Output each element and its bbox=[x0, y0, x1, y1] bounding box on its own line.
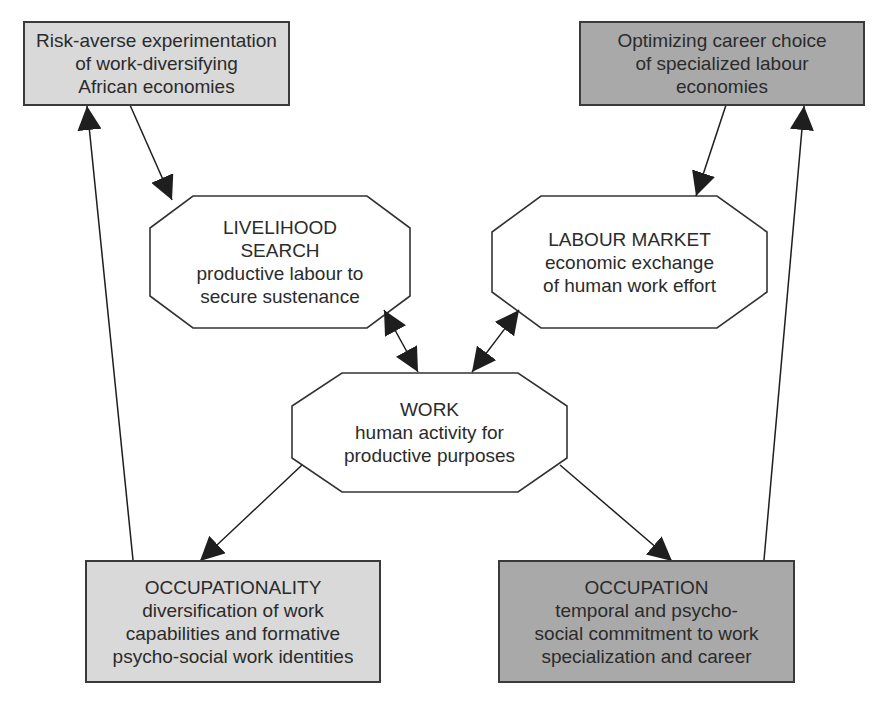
livelihood-search-node: LIVELIHOOD SEARCH productive labour to s… bbox=[150, 196, 410, 328]
node-line: productive labour to bbox=[197, 262, 364, 285]
arrow-risk-to-livelihood bbox=[130, 105, 172, 200]
arrow-occupationality-to-risk bbox=[87, 106, 133, 560]
node-line: African economies bbox=[78, 75, 234, 98]
optimizing-career-choice-box: Optimizing career choice of specialized … bbox=[579, 21, 865, 106]
node-title: LABOUR MARKET bbox=[548, 228, 711, 251]
arrow-occupation-to-optimizing bbox=[764, 106, 804, 560]
node-line: economic exchange bbox=[545, 251, 714, 274]
node-line: Risk-averse experimentation bbox=[36, 29, 277, 52]
node-title: OCCUPATIONALITY bbox=[145, 576, 322, 599]
labour-market-node: LABOUR MARKET economic exchange of human… bbox=[492, 196, 767, 328]
node-line: Optimizing career choice bbox=[617, 29, 826, 52]
work-node: WORK human activity for productive purpo… bbox=[292, 373, 567, 491]
node-line: productive purposes bbox=[344, 444, 515, 467]
node-line: economies bbox=[676, 75, 768, 98]
occupationality-box: OCCUPATIONALITY diversification of work … bbox=[85, 560, 381, 683]
arrow-optimizing-to-labour-market bbox=[696, 105, 726, 196]
node-title: WORK bbox=[400, 398, 459, 421]
node-title: OCCUPATION bbox=[585, 576, 709, 599]
node-line: specialization and career bbox=[541, 645, 751, 668]
node-title: SEARCH bbox=[240, 239, 319, 262]
occupation-box: OCCUPATION temporal and psycho- social c… bbox=[498, 560, 795, 683]
node-line: diversification of work bbox=[142, 599, 324, 622]
node-title: LIVELIHOOD bbox=[223, 216, 337, 239]
arrow-work-to-occupationality bbox=[200, 465, 302, 561]
node-line: of work-diversifying bbox=[75, 52, 238, 75]
risk-averse-experimentation-box: Risk-averse experimentation of work-dive… bbox=[23, 21, 290, 106]
node-line: of specialized labour bbox=[635, 52, 808, 75]
node-line: human activity for bbox=[355, 421, 504, 444]
node-line: psycho-social work identities bbox=[113, 645, 354, 668]
node-line: capabilities and formative bbox=[126, 622, 340, 645]
node-line: temporal and psycho- bbox=[555, 599, 738, 622]
arrow-work-to-occupation bbox=[560, 465, 672, 561]
node-line: secure sustenance bbox=[200, 285, 360, 308]
node-line: of human work effort bbox=[543, 274, 716, 297]
node-line: social commitment to work bbox=[535, 622, 759, 645]
